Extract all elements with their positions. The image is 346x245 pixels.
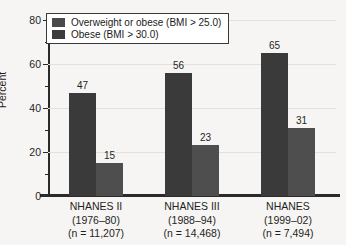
bar: 47 — [69, 93, 96, 196]
y-axis-tick — [43, 108, 48, 109]
legend-swatch-overweight — [52, 18, 65, 27]
x-axis-category-label: NHANES(1999–02)(n = 7,494) — [262, 200, 313, 241]
y-axis-tick-label: 80 — [29, 14, 41, 26]
x-axis-category-line: (1988–94) — [164, 214, 221, 228]
x-axis-category-label: NHANES II(1976–80)(n = 11,207) — [68, 200, 124, 241]
gridline — [48, 64, 336, 65]
plot-area: 020406080471556236531 — [48, 20, 336, 196]
bar-value-label: 47 — [77, 80, 88, 91]
legend-label-overweight: Overweight or obese (BMI > 25.0) — [71, 17, 221, 28]
y-axis-tick-label: 60 — [29, 58, 41, 70]
bar-value-label: 15 — [104, 150, 115, 161]
bar: 15 — [96, 163, 123, 196]
legend-item: Obese (BMI > 30.0) — [52, 29, 221, 40]
chart-legend: Overweight or obese (BMI > 25.0) Obese (… — [46, 13, 229, 44]
legend-item: Overweight or obese (BMI > 25.0) — [52, 17, 221, 28]
x-axis-category-line: NHANES — [262, 200, 313, 214]
bar-value-label: 31 — [296, 115, 307, 126]
x-axis-category-line: (1976–80) — [68, 214, 124, 228]
bar-chart: Percent 020406080471556236531 Overweight… — [0, 0, 346, 245]
y-axis-title: Percent — [0, 72, 8, 108]
bar-value-label: 56 — [173, 60, 184, 71]
bar: 56 — [165, 73, 192, 196]
x-axis-category-line: (n = 14,468) — [164, 227, 221, 241]
y-axis-minor-tick — [45, 174, 49, 175]
bar-value-label: 23 — [200, 132, 211, 143]
x-axis-category-line: (n = 7,494) — [262, 227, 313, 241]
y-axis-minor-tick — [45, 86, 49, 87]
y-axis-tick — [43, 64, 48, 65]
x-axis-category-line: (1999–02) — [262, 214, 313, 228]
bar-value-label: 65 — [269, 40, 280, 51]
y-axis-tick-label: 0 — [35, 190, 41, 202]
y-axis-tick-label: 40 — [29, 102, 41, 114]
x-axis-category-line: NHANES III — [164, 200, 221, 214]
x-axis-category-line: NHANES II — [68, 200, 124, 214]
y-axis-tick-label: 20 — [29, 146, 41, 158]
legend-label-obese: Obese (BMI > 30.0) — [71, 29, 159, 40]
y-axis-minor-tick — [45, 130, 49, 131]
bar: 31 — [288, 128, 315, 196]
y-axis-tick — [43, 152, 48, 153]
bar: 23 — [192, 145, 219, 196]
x-axis-category-label: NHANES III(1988–94)(n = 14,468) — [164, 200, 221, 241]
bar: 65 — [261, 53, 288, 196]
y-axis-tick — [43, 196, 48, 197]
legend-swatch-obese — [52, 30, 65, 39]
x-axis-category-line: (n = 11,207) — [68, 227, 124, 241]
